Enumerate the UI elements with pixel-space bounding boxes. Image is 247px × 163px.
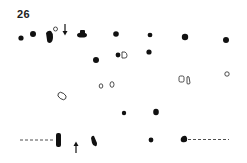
post-hole-filled [181, 136, 188, 143]
post-hole-filled [223, 37, 229, 43]
post-hole-empty [187, 77, 190, 85]
post-hole-filled [116, 53, 121, 58]
post-hole-empty [179, 76, 184, 82]
post-hole-empty [57, 91, 68, 101]
post-hole-filled [30, 31, 36, 37]
post-hole-t-shaped [77, 30, 87, 38]
post-hole-empty [122, 52, 127, 58]
post-hole-empty [99, 84, 103, 88]
post-hole-filled [93, 57, 99, 63]
post-hole-plan [0, 0, 247, 163]
post-hole-empty [225, 72, 229, 76]
post-hole-slanted [91, 136, 97, 146]
post-hole-filled [182, 34, 188, 40]
post-hole-empty [54, 27, 58, 31]
post-hole-filled [18, 35, 23, 40]
post-hole-filled [122, 111, 126, 115]
post-hole-filled [148, 33, 153, 37]
post-hole-filled [149, 138, 154, 143]
post-hole-filled [113, 31, 119, 37]
post-hole-elongated [46, 31, 53, 43]
post-hole-elongated [56, 133, 61, 147]
post-hole-filled [153, 109, 159, 115]
post-hole-filled [146, 49, 151, 54]
arrow-up-icon [74, 142, 79, 154]
post-hole-empty [110, 82, 114, 88]
arrow-down-icon [63, 24, 68, 36]
